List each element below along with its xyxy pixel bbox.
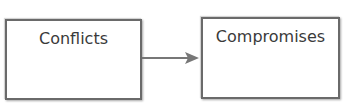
node-conflicts: Conflicts [5, 19, 142, 100]
arrow-icon [141, 50, 203, 66]
node-label: Compromises [203, 27, 338, 46]
node-label: Conflicts [7, 29, 140, 48]
node-compromises: Compromises [201, 17, 340, 99]
